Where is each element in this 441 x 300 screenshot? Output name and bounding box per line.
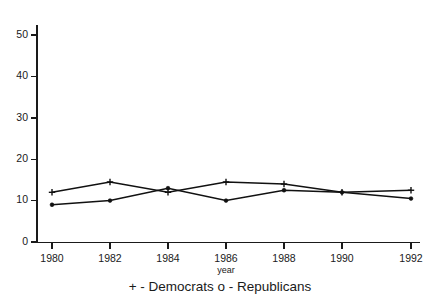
republicans-markers (50, 186, 413, 206)
x-tick-label-1992: 1992 (399, 252, 423, 264)
data-point-marker-dot (340, 190, 344, 194)
data-point-marker-dot (108, 199, 112, 203)
y-tick-label-50: 50 (16, 28, 28, 40)
data-point-marker-dot (224, 199, 228, 203)
data-point-marker-dot (50, 203, 54, 207)
x-tick-label-1986: 1986 (214, 252, 238, 264)
chart-container: 50 40 30 20 10 0 1980 1982 1984 1986 198… (0, 0, 441, 300)
democrats-line (52, 182, 411, 192)
y-tick-label-40: 40 (16, 69, 28, 81)
x-tick-label-1988: 1988 (272, 252, 296, 264)
republicans-line (52, 188, 411, 205)
data-point-marker-dot (166, 186, 170, 190)
x-tick-label-1982: 1982 (98, 252, 122, 264)
democrats-markers (49, 179, 414, 196)
line-chart-svg: 50 40 30 20 10 0 1980 1982 1984 1986 198… (0, 0, 441, 300)
series-democrats (49, 179, 414, 196)
data-point-marker-dot (282, 188, 286, 192)
data-point-marker-dot (409, 197, 413, 201)
x-tick-label-1984: 1984 (156, 252, 180, 264)
y-tick-label-20: 20 (16, 152, 28, 164)
series-republicans (50, 186, 413, 206)
x-tick-label-1990: 1990 (330, 252, 354, 264)
x-tick-label-1980: 1980 (40, 252, 64, 264)
y-tick-label-10: 10 (16, 193, 28, 205)
legend-caption: + - Democrats o - Republicans (129, 279, 312, 294)
y-tick-label-0: 0 (22, 235, 28, 247)
y-tick-label-30: 30 (16, 111, 28, 123)
x-axis-title: year (217, 265, 235, 275)
